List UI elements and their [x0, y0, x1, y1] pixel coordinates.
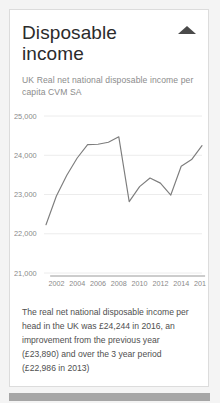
- svg-text:2006: 2006: [90, 279, 106, 288]
- svg-text:22,000: 22,000: [14, 230, 37, 239]
- svg-text:2010: 2010: [132, 279, 148, 288]
- svg-text:2002: 2002: [48, 279, 64, 288]
- triangle-up-glyph: [178, 26, 196, 34]
- chart-series-line: [46, 137, 202, 225]
- card-subtitle: UK Real net national disposable income p…: [22, 74, 196, 100]
- card-header: Disposable income: [10, 10, 208, 65]
- horizontal-scrollbar-thumb[interactable]: [9, 393, 210, 401]
- footer-description: The real net national disposable income …: [22, 306, 196, 376]
- svg-text:21,000: 21,000: [14, 269, 37, 278]
- chart-xtick-labels: 20022004200620082010201220142016: [48, 279, 206, 288]
- svg-text:2012: 2012: [152, 279, 168, 288]
- triangle-up-icon[interactable]: [176, 23, 198, 39]
- chart-svg: 21,00022,00023,00024,00025,000 200220042…: [14, 108, 206, 298]
- svg-text:23,000: 23,000: [14, 190, 37, 199]
- svg-text:25,000: 25,000: [14, 112, 37, 121]
- chart-ytick-labels: 21,00022,00023,00024,00025,000: [14, 112, 37, 278]
- svg-text:24,000: 24,000: [14, 151, 37, 160]
- chart-gridlines: [44, 116, 202, 273]
- card-footer: The real net national disposable income …: [22, 306, 196, 387]
- horizontal-scrollbar[interactable]: [9, 393, 210, 401]
- line-chart: 21,00022,00023,00024,00025,000 200220042…: [14, 108, 204, 298]
- svg-text:2004: 2004: [69, 279, 85, 288]
- disposable-income-card: Disposable income UK Real net national d…: [9, 9, 209, 387]
- page-title: Disposable income: [22, 22, 162, 65]
- svg-text:2008: 2008: [111, 279, 127, 288]
- svg-text:2016: 2016: [194, 279, 206, 288]
- svg-text:2014: 2014: [173, 279, 189, 288]
